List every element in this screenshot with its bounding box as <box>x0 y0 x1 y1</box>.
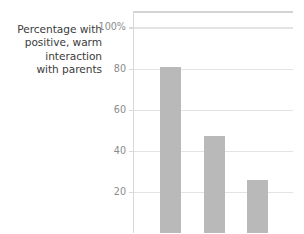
gridline-80 <box>134 69 293 71</box>
bar-2 <box>204 136 225 233</box>
y-tick-label: 20 <box>114 187 126 197</box>
tick-mark <box>129 110 133 112</box>
y-axis-spine <box>133 11 134 233</box>
y-axis-annotation-label: Percentage with positive, warm interacti… <box>4 23 102 77</box>
axis-label-line-1: Percentage with <box>4 23 102 36</box>
bar-chart-figure: Percentage with positive, warm interacti… <box>0 0 304 233</box>
y-tick-label: 100% <box>99 23 126 33</box>
gridline-100 <box>134 27 293 29</box>
y-tick-label: 40 <box>114 146 126 156</box>
y-tick-label: 80 <box>114 64 126 74</box>
plot-top-border <box>133 11 293 13</box>
tick-mark <box>129 69 133 71</box>
plot-area: 20406080100% <box>133 11 293 233</box>
tick-mark <box>129 151 133 153</box>
bar-3 <box>247 180 268 233</box>
gridline-60 <box>134 110 293 112</box>
tick-mark <box>129 27 133 29</box>
axis-label-line-3: interaction <box>4 50 102 63</box>
y-tick-label: 60 <box>114 105 126 115</box>
axis-label-line-4: with parents <box>4 63 102 76</box>
tick-mark <box>129 192 133 194</box>
axis-label-line-2: positive, warm <box>4 36 102 49</box>
bar-1 <box>160 67 181 234</box>
